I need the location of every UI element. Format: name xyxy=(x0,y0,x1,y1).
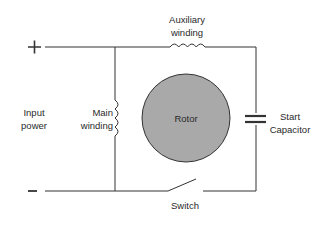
main-winding-coil xyxy=(115,100,118,136)
auxiliary-winding-label: Auxiliary winding xyxy=(162,13,212,39)
auxiliary-winding-label-line1: Auxiliary xyxy=(162,13,212,26)
auxiliary-winding-coil xyxy=(170,44,205,47)
start-capacitor-label: Start Capacitor xyxy=(266,110,314,136)
start-capacitor-label-line2: Capacitor xyxy=(266,123,314,136)
rotor-label: Rotor xyxy=(166,112,206,125)
switch-label: Switch xyxy=(165,199,205,212)
input-power-label-line1: Input xyxy=(14,106,54,119)
rotor-label-text: Rotor xyxy=(174,113,197,124)
input-power-label-line2: power xyxy=(14,119,54,132)
start-capacitor-label-line1: Start xyxy=(266,110,314,123)
switch-label-text: Switch xyxy=(171,200,199,211)
plus-terminal xyxy=(28,41,41,54)
input-power-label: Input power xyxy=(14,106,54,132)
main-winding-label-line1: Main xyxy=(73,106,113,119)
main-winding-label-line2: winding xyxy=(73,119,113,132)
auxiliary-winding-label-line2: winding xyxy=(162,26,212,39)
switch-blade xyxy=(168,179,196,191)
main-winding-label: Main winding xyxy=(73,106,113,132)
